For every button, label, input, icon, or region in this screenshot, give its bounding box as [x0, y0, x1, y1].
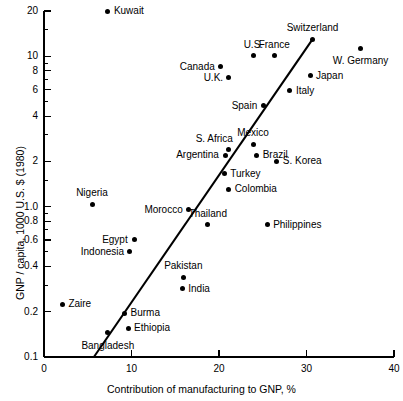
data-point-label: W. Germany	[333, 56, 389, 66]
data-point-label: Nigeria	[76, 188, 108, 198]
data-point-label: S. Africa	[196, 134, 233, 144]
scatter-chart: GNP / capita, 1000 U.S. $ (1980) Contrib…	[0, 0, 403, 401]
x-tick-label: 20	[207, 364, 231, 374]
y-tick-label: 2	[12, 156, 38, 166]
y-tick-label: 10	[12, 51, 38, 61]
y-tick-label: 0.1	[12, 352, 38, 362]
data-point-label: Morocco	[144, 205, 182, 215]
data-point-label: Switzerland	[287, 23, 339, 33]
data-point-label: Turkey	[230, 169, 260, 179]
data-point-label: Bangladesh	[81, 341, 134, 351]
data-point-label: Indonesia	[81, 247, 124, 257]
data-point-label: Pakistan	[164, 261, 202, 271]
y-tick-label: 20	[12, 6, 38, 16]
data-point-label: Spain	[232, 101, 258, 111]
data-point-marker	[60, 302, 65, 307]
data-point-label: Burma	[131, 308, 160, 318]
data-point-marker	[181, 275, 186, 280]
data-point-marker	[180, 286, 185, 291]
x-tick-label: 0	[32, 364, 56, 374]
y-tick-label: 0.6	[12, 235, 38, 245]
x-tick-label: 10	[120, 364, 144, 374]
data-point-label: Philippines	[273, 220, 321, 230]
data-point-marker	[126, 326, 131, 331]
data-point-label: Canada	[180, 62, 215, 72]
y-tick-label: 6	[12, 85, 38, 95]
data-point-label: S. Korea	[283, 156, 322, 166]
data-point-marker	[122, 311, 127, 316]
data-point-marker	[265, 222, 270, 227]
y-tick-label: 1.0	[12, 202, 38, 212]
data-point-marker	[223, 153, 228, 158]
trend-line	[94, 39, 313, 357]
x-tick-label: 30	[295, 364, 319, 374]
data-point-label: Mexico	[237, 128, 269, 138]
data-point-marker	[310, 37, 315, 42]
data-point-label: France	[259, 40, 290, 50]
data-point-label: Argentina	[176, 150, 219, 160]
data-point-label: Italy	[296, 86, 314, 96]
data-point-label: Colombia	[235, 184, 277, 194]
x-tick-label: 40	[382, 364, 403, 374]
data-point-label: India	[188, 284, 210, 294]
y-tick-label: 0.8	[12, 216, 38, 226]
data-point-label: U.K.	[204, 73, 223, 83]
data-point-marker	[90, 202, 95, 207]
y-tick-label: 0.4	[12, 261, 38, 271]
data-point-label: Egypt	[102, 235, 128, 245]
data-point-label: Kuwait	[114, 6, 144, 16]
data-point-label: Japan	[316, 71, 343, 81]
y-tick-label: 4	[12, 111, 38, 121]
y-tick-label: 8	[12, 66, 38, 76]
data-point-label: Zaire	[68, 299, 91, 309]
data-point-marker	[254, 153, 259, 158]
y-tick-label: 0.2	[12, 307, 38, 317]
data-point-marker	[251, 53, 256, 58]
data-point-marker	[272, 53, 277, 58]
x-axis-title: Contribution of manufacturing to GNP, %	[0, 383, 403, 395]
data-point-marker	[251, 142, 256, 147]
data-point-label: Thailand	[189, 209, 227, 219]
data-point-marker	[105, 9, 110, 14]
data-point-label: Ethiopia	[134, 323, 170, 333]
